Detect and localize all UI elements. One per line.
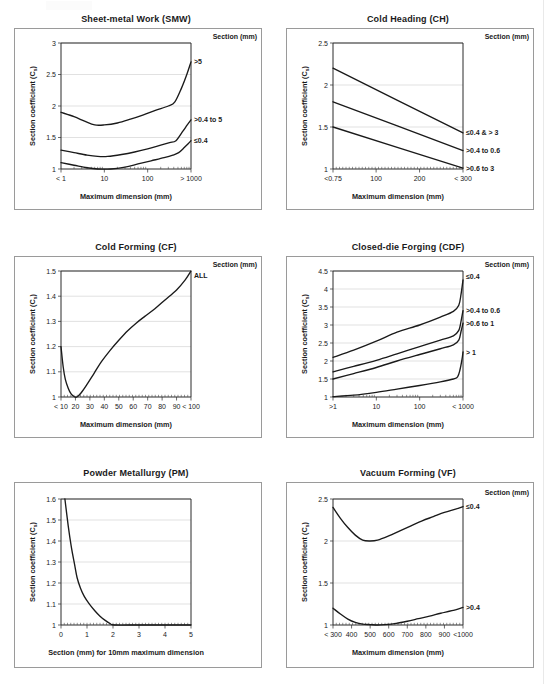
- chart-svg-smw: 11.522.53< 110100> 1000Section (mm)>5>0.…: [15, 29, 261, 209]
- y-tick-label: 1.4: [46, 538, 56, 545]
- chart-svg-cf: 11.11.21.31.41.5< 102030405060708090< 10…: [15, 257, 261, 437]
- y-tick-label: 1.5: [46, 268, 56, 275]
- legend-title: Section (mm): [213, 33, 257, 41]
- chart-svg-cdf: 11.522.533.544.5>110100< 1000Section (mm…: [287, 257, 533, 437]
- y-tick-label: 1.6: [46, 496, 56, 503]
- y-tick-label: 1.3: [46, 318, 56, 325]
- legend-title: Section (mm): [485, 261, 529, 269]
- x-tick-label: 400: [346, 631, 358, 638]
- x-tick-label: 100: [414, 403, 426, 410]
- chart-cell-pm: Powder Metallurgy (PM) 11.11.21.31.41.51…: [0, 454, 272, 684]
- chart-title-cf: Cold Forming (CF): [0, 228, 272, 256]
- y-tick-label: 3: [52, 40, 56, 47]
- x-tick-label: 50: [115, 403, 123, 410]
- series-curve-0: [61, 271, 191, 397]
- x-tick-label: 600: [383, 631, 395, 638]
- y-tick-label: 2.5: [318, 340, 328, 347]
- series-label-0: ≤0.4: [466, 503, 480, 510]
- x-tick-label: 60: [129, 403, 137, 410]
- y-tick-label: 1: [52, 166, 56, 173]
- x-tick-label: 500: [364, 631, 376, 638]
- series-label-0: ≤0.4: [466, 273, 480, 280]
- chart-title-smw: Sheet-metal Work (SMW): [0, 0, 272, 28]
- series-label-0: ≤0.4 & > 3: [466, 129, 499, 136]
- x-tick-label: 30: [86, 403, 94, 410]
- chart-svg-vf: 11.522.5< 300400500600700800900<1000Sect…: [287, 483, 533, 667]
- x-tick-label: 2: [111, 631, 115, 638]
- y-axis-title: Section coefficient (Cs): [28, 66, 38, 146]
- y-axis-title: Section coefficient (Cs): [300, 66, 310, 146]
- y-tick-label: 1.5: [46, 134, 56, 141]
- y-tick-label: 2: [52, 103, 56, 110]
- legend-title: Section (mm): [213, 261, 257, 269]
- chart-cell-cf: Cold Forming (CF) 11.11.21.31.41.5< 1020…: [0, 228, 272, 454]
- x-tick-label: < 300: [454, 175, 472, 182]
- x-tick-label: < 1: [56, 175, 66, 182]
- figure-page: Sheet-metal Work (SMW) 11.522.53< 110100…: [0, 0, 544, 684]
- y-tick-label: 1: [52, 394, 56, 401]
- y-tick-label: 1.5: [318, 124, 328, 131]
- x-tick-label: 20: [72, 403, 80, 410]
- y-tick-label: 1.5: [46, 517, 56, 524]
- chart-cell-smw: Sheet-metal Work (SMW) 11.522.53< 110100…: [0, 0, 272, 228]
- x-tick-label: 5: [189, 631, 193, 638]
- chart-panel-smw: 11.522.53< 110100> 1000Section (mm)>5>0.…: [14, 28, 262, 210]
- series-label-2: ≤0.4: [194, 137, 208, 144]
- chart-cell-ch: Cold Heading (CH) 11.522.5<0.75100200< 3…: [272, 0, 544, 228]
- x-tick-label: 1: [85, 631, 89, 638]
- x-tick-label: < 10: [54, 403, 68, 410]
- x-tick-label: 3: [137, 631, 141, 638]
- y-axis-title: Section coefficient (Cs): [28, 294, 38, 374]
- chart-title-cdf: Closed-die Forging (CDF): [272, 228, 544, 256]
- y-axis-title: Section coefficient (Cs): [28, 522, 38, 602]
- chart-panel-cdf: 11.522.533.544.5>110100< 1000Section (mm…: [286, 256, 534, 438]
- x-axis-title: Maximum dimension (mm): [352, 192, 445, 201]
- x-axis-title: Maximum dimension (mm): [352, 420, 445, 429]
- series-curve-0: [61, 62, 191, 125]
- x-tick-label: 70: [144, 403, 152, 410]
- chart-panel-vf: 11.522.5< 300400500600700800900<1000Sect…: [286, 482, 534, 668]
- x-axis-title: Section (mm) for 10mm maximum dimension: [48, 648, 204, 657]
- chart-svg-ch: 11.522.5<0.75100200< 300Section (mm)≤0.4…: [287, 29, 533, 209]
- x-tick-label: 90: [173, 403, 181, 410]
- legend-title: Section (mm): [485, 33, 529, 41]
- y-tick-label: 2: [324, 358, 328, 365]
- series-curve-1: [333, 607, 463, 625]
- chart-svg-pm: 11.11.21.31.41.51.6012345Section coeffic…: [15, 483, 261, 667]
- legend-title: Section (mm): [485, 489, 529, 497]
- y-axis-title: Section coefficient (Cs): [300, 522, 310, 602]
- y-tick-label: 2.5: [318, 40, 328, 47]
- x-tick-label: 800: [420, 631, 432, 638]
- x-tick-label: 0: [59, 631, 63, 638]
- y-tick-label: 1: [324, 622, 328, 629]
- y-tick-label: 1.4: [46, 293, 56, 300]
- x-tick-label: 10: [100, 175, 108, 182]
- x-tick-label: <0.75: [324, 175, 342, 182]
- y-tick-label: 4: [324, 286, 328, 293]
- x-tick-label: < 300: [324, 631, 342, 638]
- series-curve-0: [333, 280, 463, 357]
- x-tick-label: > 1000: [180, 175, 202, 182]
- y-tick-label: 3: [324, 322, 328, 329]
- y-tick-label: 1.2: [46, 580, 56, 587]
- series-label-1: >0.4 to 5: [194, 116, 222, 123]
- x-tick-label: 700: [401, 631, 413, 638]
- y-tick-label: 2: [324, 82, 328, 89]
- y-tick-label: 2: [324, 538, 328, 545]
- y-tick-label: 1.3: [46, 559, 56, 566]
- chart-cell-cdf: Closed-die Forging (CDF) 11.522.533.544.…: [272, 228, 544, 454]
- x-axis-title: Maximum dimension (mm): [80, 420, 173, 429]
- y-tick-label: 2.5: [318, 496, 328, 503]
- y-tick-label: 1.5: [318, 580, 328, 587]
- x-tick-label: 100: [370, 175, 382, 182]
- x-axis-title: Maximum dimension (mm): [352, 648, 445, 657]
- x-tick-label: < 100: [182, 403, 200, 410]
- x-tick-label: 100: [142, 175, 154, 182]
- y-tick-label: 1: [324, 394, 328, 401]
- series-curve-1: [333, 311, 463, 372]
- series-curve-0: [333, 68, 463, 133]
- y-tick-label: 4.5: [318, 268, 328, 275]
- series-curve-0: [333, 507, 463, 541]
- y-tick-label: 1.5: [318, 376, 328, 383]
- chart-cell-vf: Vacuum Forming (VF) 11.522.5< 3004005006…: [272, 454, 544, 684]
